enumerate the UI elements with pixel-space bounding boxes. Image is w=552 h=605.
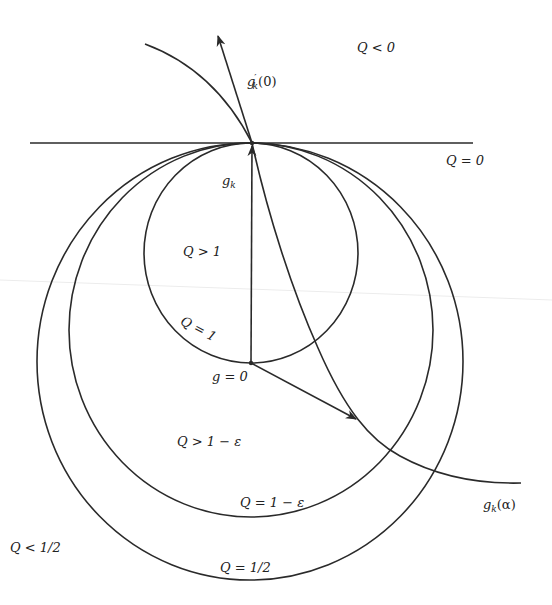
label-gk-prime-0: g′k(0)	[247, 72, 277, 91]
label-q-less-half: Q < 1/2	[10, 540, 61, 555]
label-q-equals-1-minus-epsilon: Q = 1 − ε	[240, 495, 304, 510]
label-q-less-0: Q < 0	[357, 40, 395, 55]
origin-to-gk-alpha-arrow	[251, 363, 356, 419]
gk-prime-arrow	[218, 36, 252, 143]
label-gk: gk	[222, 173, 236, 190]
tangent-point-dot	[250, 141, 254, 145]
label-q-greater-1-minus-epsilon: Q > 1 − ε	[177, 434, 241, 449]
scan-artifact	[0, 280, 552, 300]
label-g-equals-0: g = 0	[212, 369, 248, 384]
q-level-set-diagram: Q < 0 Q = 0 g′k(0) gk Q > 1 Q = 1 g = 0 …	[0, 0, 552, 605]
label-q-equals-0: Q = 0	[446, 153, 484, 168]
origin-point-dot	[249, 361, 253, 365]
label-gk-alpha: gk(α)	[483, 497, 516, 514]
gk-vector-arrow	[251, 146, 252, 363]
label-q-equals-half: Q = 1/2	[220, 560, 271, 575]
label-q-greater-1: Q > 1	[183, 244, 221, 259]
